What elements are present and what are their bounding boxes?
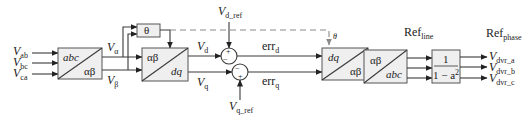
- svg-text:αβ: αβ: [370, 54, 382, 66]
- block-alphabeta-to-dq: αβ dq: [142, 48, 188, 81]
- line-v-beta-to-theta: [128, 34, 137, 70]
- svg-text:θ: θ: [144, 24, 149, 36]
- label-err-q-1: errq: [262, 74, 279, 90]
- block-dq-to-alphabeta: dq αβ: [322, 48, 368, 80]
- svg-text:dq: dq: [171, 65, 183, 77]
- control-block-diagram: Vab Vbc Vca abc αβ Vα Vβ θ θ αβ dq Vd Vq…: [0, 0, 530, 123]
- svg-text:dq: dq: [328, 51, 340, 63]
- label-v-d-ref: Vd_ref: [218, 4, 243, 20]
- svg-text:abc: abc: [386, 68, 402, 80]
- block-theta: θ: [137, 24, 160, 37]
- label-theta-feedback: θ: [333, 32, 337, 41]
- summer-q: − +: [232, 64, 248, 81]
- svg-text:−: −: [223, 55, 228, 64]
- label-v-q-ref: Vq_ref: [229, 99, 254, 115]
- line-theta-to-park: [160, 30, 170, 48]
- block-label-alphabeta: αβ: [84, 65, 96, 77]
- svg-text:αβ: αβ: [147, 51, 159, 63]
- block-label-abc: abc: [63, 51, 79, 63]
- svg-text:αβ: αβ: [350, 65, 362, 77]
- label-ref-line: Refline: [404, 25, 434, 41]
- label-v-q: Vq: [197, 75, 208, 91]
- label-v-d: Vd: [197, 39, 208, 55]
- line-v-alpha-to-theta: [123, 27, 137, 57]
- block-alphabeta-to-abc: αβ abc: [364, 50, 407, 83]
- block-scale: 1 1 − a2: [432, 50, 460, 83]
- svg-text:1: 1: [443, 53, 449, 65]
- input-labels: Vab Vbc Vca: [13, 44, 28, 82]
- label-ref-phase: Refphase: [486, 26, 522, 42]
- block-abc-to-alphabeta: abc αβ: [58, 48, 102, 79]
- svg-text:+: +: [238, 72, 243, 81]
- label-err-d-1: errd: [262, 39, 279, 55]
- label-v-alpha: Vα: [107, 40, 119, 56]
- label-v-beta: Vβ: [107, 73, 118, 89]
- line-theta-feedback: [170, 30, 329, 45]
- summer-d: + −: [221, 47, 237, 64]
